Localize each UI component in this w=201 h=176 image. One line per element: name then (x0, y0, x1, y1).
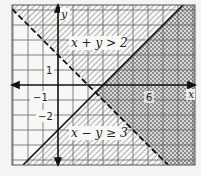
tick-y-neg2: −2 (38, 111, 53, 122)
inequality-label-1: x + y > 2 (71, 36, 128, 50)
inequality-label-2: x − y ≥ 3 (71, 126, 128, 140)
tick-x-6: 6 (146, 92, 152, 103)
inequality-graph: y x −1 6 1 −2 x + y > 2 x − y ≥ 3 (0, 0, 201, 176)
x-axis-label: x (188, 88, 195, 101)
tick-y-1: 1 (46, 65, 52, 76)
plot-area (12, 0, 195, 176)
tick-x-neg1: −1 (33, 92, 48, 103)
y-axis-label: y (60, 8, 68, 21)
